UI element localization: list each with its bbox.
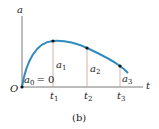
tick-label-t1: t1 (50, 90, 59, 103)
tick-label-t2: t2 (84, 90, 93, 103)
acceleration-time-diagram: a t O a0= 0 a1 a2 a3 t1 t2 t3 (b) (0, 0, 159, 129)
point-origin (20, 85, 23, 88)
point-a3 (118, 64, 121, 67)
point-a1 (51, 39, 54, 42)
label-a3: a3 (122, 73, 132, 86)
label-a2: a2 (90, 63, 100, 76)
x-axis-label: t (146, 80, 151, 91)
origin-label: O (10, 83, 18, 94)
figure-caption: (b) (72, 112, 86, 123)
y-axis-label: a (17, 4, 23, 15)
initial-value-label: a0= 0 (24, 74, 54, 87)
point-a2 (85, 46, 88, 49)
label-a1: a1 (56, 59, 66, 72)
tick-label-t3: t3 (117, 90, 126, 103)
